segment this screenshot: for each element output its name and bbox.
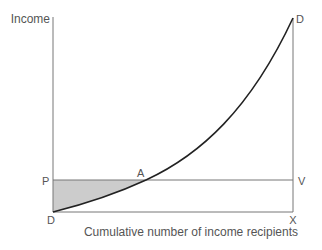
label-d-top: D: [296, 13, 304, 25]
label-a: A: [137, 167, 145, 179]
shaded-poverty-gap: [53, 180, 146, 212]
y-axis-label: Income: [11, 12, 51, 26]
label-p: P: [42, 175, 49, 187]
x-axis-label: Cumulative number of income recipients: [84, 225, 298, 239]
label-d-origin: D: [47, 214, 55, 226]
income-distribution-diagram: Income D P A V D X Cumulative number of …: [0, 0, 322, 250]
label-v: V: [298, 175, 306, 187]
